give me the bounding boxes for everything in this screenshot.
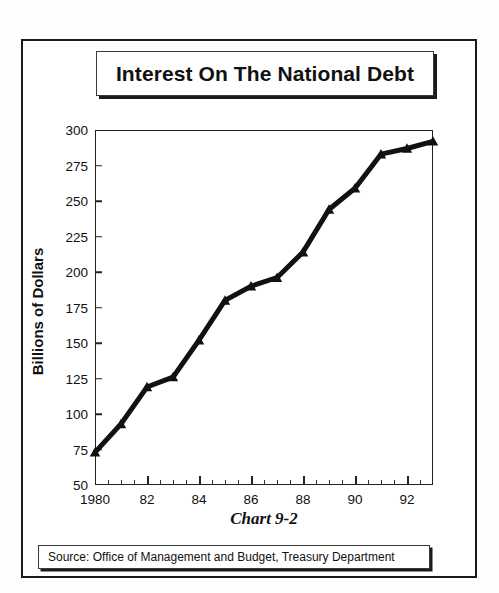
chart-caption: Chart 9-2 [95, 509, 433, 529]
page-title: Interest On The National Debt [97, 62, 433, 86]
plot-area [95, 130, 433, 485]
chart-title-box: Interest On The National Debt [96, 51, 434, 96]
y-axis-title-text: Billions of Dollars [30, 247, 47, 375]
chart-page: Interest On The National Debt Billions o… [0, 0, 499, 593]
source-box: Source: Office of Management and Budget,… [38, 545, 430, 569]
source-note: Source: Office of Management and Budget,… [48, 550, 395, 564]
y-axis-title: Billions of Dollars [27, 196, 49, 426]
